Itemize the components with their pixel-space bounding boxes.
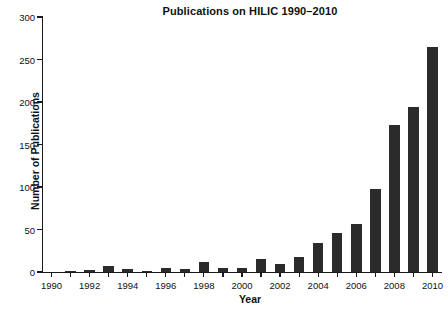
x-tick-mark bbox=[394, 272, 395, 277]
publications-bar-chart: Publications on HILIC 1990–2010 Number o… bbox=[0, 0, 448, 314]
x-tick-mark bbox=[127, 272, 128, 277]
bar-1992 bbox=[84, 270, 94, 272]
x-tick-mark bbox=[146, 272, 147, 277]
bar-2005 bbox=[332, 233, 342, 272]
bar-2006 bbox=[351, 224, 361, 272]
chart-title: Publications on HILIC 1990–2010 bbox=[60, 5, 440, 17]
bar-1997 bbox=[180, 269, 190, 272]
x-tick-mark bbox=[222, 272, 223, 277]
bar-1998 bbox=[199, 262, 209, 272]
x-tick-mark bbox=[260, 272, 261, 277]
bar-1999 bbox=[218, 268, 228, 272]
x-tick-mark bbox=[413, 272, 414, 277]
x-tick-mark bbox=[51, 272, 52, 277]
bar-1996 bbox=[161, 268, 171, 272]
bar-2007 bbox=[370, 189, 380, 272]
bar-2004 bbox=[313, 243, 323, 272]
x-tick-mark bbox=[432, 272, 433, 277]
bar-1995 bbox=[142, 271, 152, 272]
bar-1991 bbox=[65, 271, 75, 272]
bar-2001 bbox=[256, 259, 266, 272]
x-tick-mark bbox=[165, 272, 166, 277]
x-tick-mark bbox=[279, 272, 280, 277]
bar-2002 bbox=[275, 264, 285, 272]
x-tick-mark bbox=[108, 272, 109, 277]
bar-2000 bbox=[237, 268, 247, 272]
bar-2008 bbox=[389, 125, 399, 272]
x-tick-mark bbox=[318, 272, 319, 277]
x-tick-mark bbox=[184, 272, 185, 277]
bar-2003 bbox=[294, 257, 304, 272]
x-tick-mark bbox=[70, 272, 71, 277]
x-tick-mark bbox=[375, 272, 376, 277]
bar-2010 bbox=[427, 47, 437, 272]
x-tick-mark bbox=[89, 272, 90, 277]
y-axis-title: Number of Publications bbox=[29, 56, 41, 246]
x-tick-mark bbox=[356, 272, 357, 277]
bar-1994 bbox=[122, 269, 132, 272]
x-tick-mark bbox=[203, 272, 204, 277]
x-tick-mark bbox=[241, 272, 242, 277]
bar-2009 bbox=[408, 107, 418, 272]
x-tick-label: 2010 bbox=[410, 280, 448, 291]
bars-container bbox=[42, 17, 442, 272]
x-tick-mark bbox=[299, 272, 300, 277]
x-axis-title: Year bbox=[60, 293, 440, 305]
x-tick-mark bbox=[337, 272, 338, 277]
bar-1993 bbox=[103, 266, 113, 272]
